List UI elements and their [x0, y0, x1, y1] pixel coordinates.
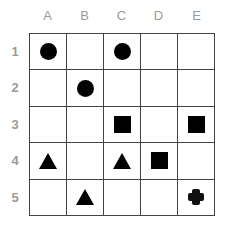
- column-label-b: B: [66, 8, 103, 23]
- grid-cell-d1: [141, 34, 178, 70]
- grid-cell-d3: [141, 107, 178, 143]
- column-label-a: A: [29, 8, 66, 23]
- grid-cell-e3: [178, 107, 215, 143]
- grid-cell-c5: [104, 180, 141, 216]
- column-label-d: D: [140, 8, 177, 23]
- grid-cell-e2: [178, 70, 215, 106]
- grid-cell-c2: [104, 70, 141, 106]
- row-label-1: 1: [8, 33, 22, 70]
- grid-cell-a2: [30, 70, 67, 106]
- grid-cell-a4: [30, 143, 67, 179]
- circle-icon: [77, 80, 94, 97]
- grid-cell-d2: [141, 70, 178, 106]
- row-label-4: 4: [8, 142, 22, 179]
- grid-cell-e5: [178, 180, 215, 216]
- grid-cell-a3: [30, 107, 67, 143]
- column-label-e: E: [178, 8, 215, 23]
- grid-cell-c1: [104, 34, 141, 70]
- grid-cell-e4: [178, 143, 215, 179]
- grid-cell-b1: [67, 34, 104, 70]
- grid-cell-d5: [141, 180, 178, 216]
- square-icon: [151, 152, 168, 169]
- grid-board: [29, 33, 215, 216]
- column-label-c: C: [103, 8, 140, 23]
- grid-cell-e1: [178, 34, 215, 70]
- grid-cell-c4: [104, 143, 141, 179]
- grid-cell-b4: [67, 143, 104, 179]
- row-label-5: 5: [8, 179, 22, 216]
- circle-icon: [40, 43, 57, 60]
- triangle-icon: [113, 153, 131, 169]
- row-label-2: 2: [8, 69, 22, 106]
- triangle-icon: [76, 189, 94, 205]
- grid-cell-b5: [67, 180, 104, 216]
- row-label-3: 3: [8, 106, 22, 143]
- grid-cell-c3: [104, 107, 141, 143]
- triangle-icon: [39, 153, 57, 169]
- grid-cell-d4: [141, 143, 178, 179]
- grid-cell-a5: [30, 180, 67, 216]
- square-icon: [114, 116, 131, 133]
- grid-cell-b2: [67, 70, 104, 106]
- circle-icon: [114, 43, 131, 60]
- grid-cell-b3: [67, 107, 104, 143]
- square-icon: [188, 116, 205, 133]
- grid-cell-a1: [30, 34, 67, 70]
- cross-icon: [188, 189, 204, 205]
